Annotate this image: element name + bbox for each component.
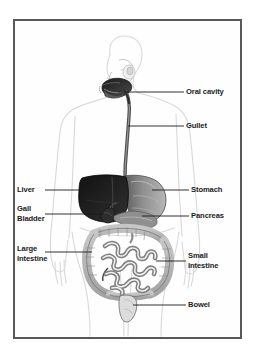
- label-stomach-text: Stomach: [191, 185, 222, 195]
- bowel-organ: [119, 295, 137, 322]
- label-bowel[interactable]: Bowel: [188, 300, 210, 310]
- digestive-system-illustration: [0, 0, 256, 359]
- label-large-intestine-line1: Large: [17, 244, 47, 254]
- label-small-intestine-line1: Small: [188, 251, 218, 261]
- label-small-intestine[interactable]: Small Intestine: [188, 251, 218, 270]
- label-pancreas[interactable]: Pancreas: [191, 211, 224, 221]
- label-pancreas-text: Pancreas: [191, 211, 224, 221]
- label-large-intestine-line2: Intestine: [17, 254, 47, 264]
- label-small-intestine-line2: Intestine: [188, 261, 218, 271]
- label-oral-cavity[interactable]: Oral cavity: [186, 87, 224, 97]
- diagram-page: Oral cavity Gullet Stomach Pancreas Smal…: [0, 0, 256, 359]
- gullet-organ: [124, 90, 129, 177]
- label-gullet-text: Gullet: [186, 121, 207, 131]
- label-gall-bladder[interactable]: Gall Bladder: [17, 204, 45, 223]
- label-gall-bladder-line1: Gall: [17, 204, 45, 214]
- label-liver[interactable]: Liver: [17, 185, 35, 195]
- label-oral-cavity-text: Oral cavity: [186, 87, 224, 97]
- label-liver-text: Liver: [17, 185, 35, 195]
- label-stomach[interactable]: Stomach: [191, 185, 222, 195]
- label-bowel-text: Bowel: [188, 300, 210, 310]
- label-gall-bladder-line2: Bladder: [17, 214, 45, 224]
- label-large-intestine[interactable]: Large Intestine: [17, 244, 47, 263]
- label-gullet[interactable]: Gullet: [186, 121, 207, 131]
